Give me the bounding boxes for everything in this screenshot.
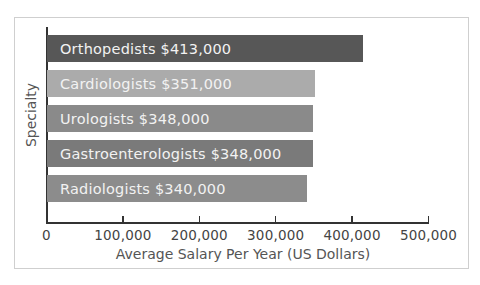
x-axis-label: Average Salary Per Year (US Dollars) bbox=[116, 246, 370, 262]
x-tick bbox=[122, 216, 124, 223]
bar-cardiologists: Cardiologists $351,000 bbox=[47, 70, 315, 97]
x-tick-label: 400,000 bbox=[323, 227, 380, 243]
bar-radiologists: Radiologists $340,000 bbox=[47, 175, 307, 202]
y-axis-label: Specialty bbox=[23, 83, 39, 147]
x-tick-label: 200,000 bbox=[171, 227, 228, 243]
bar-label: Cardiologists $351,000 bbox=[47, 76, 232, 92]
bar-gastroenterologists: Gastroenterologists $348,000 bbox=[47, 140, 313, 167]
x-tick-label: 100,000 bbox=[94, 227, 151, 243]
x-tick bbox=[428, 216, 430, 223]
x-tick-label: 300,000 bbox=[247, 227, 304, 243]
bar-orthopedists: Orthopedists $413,000 bbox=[47, 35, 363, 62]
x-tick-label: 0 bbox=[42, 227, 51, 243]
bar-label: Gastroenterologists $348,000 bbox=[47, 146, 281, 162]
bar-urologists: Urologists $348,000 bbox=[47, 105, 313, 132]
x-axis-line bbox=[46, 222, 429, 224]
bar-label: Orthopedists $413,000 bbox=[47, 41, 231, 57]
x-tick bbox=[275, 216, 277, 223]
x-tick bbox=[351, 216, 353, 223]
x-tick-label: 500,000 bbox=[400, 227, 457, 243]
x-tick bbox=[199, 216, 201, 223]
bar-label: Urologists $348,000 bbox=[47, 111, 210, 127]
bar-label: Radiologists $340,000 bbox=[47, 181, 226, 197]
